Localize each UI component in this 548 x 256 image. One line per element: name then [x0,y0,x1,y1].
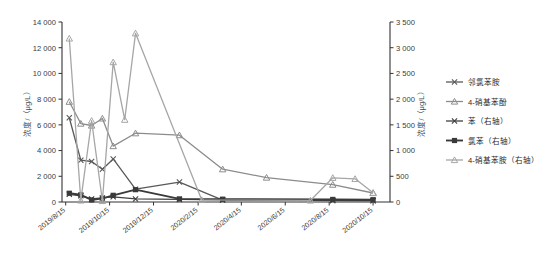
point-marker [89,197,94,202]
legend-label: 邻氯苯胺 [468,77,500,87]
y-tick-label-left: 12 000 [33,44,56,53]
series-4-硝基苯胺（右轴） [66,30,376,203]
y-tick-label-right: 0 [396,198,400,207]
line-chart: 02 0004 0006 0008 00010 00012 00014 0000… [0,0,548,256]
legend-label: 4-硝基苯胺（右轴） [468,155,539,165]
x-tick-label: 2019/12/15 [121,205,155,234]
y-tick-label-left: 10 000 [33,69,56,78]
y-tick-label-right: 3 500 [396,18,415,27]
y-tick-label-left: 14 000 [33,18,56,27]
legend-label: 氯苯（右轴） [468,136,516,146]
series-line [69,33,373,201]
y-tick-label-left: 6 000 [37,121,56,130]
point-marker [177,196,182,201]
y-tick-label-right: 2 500 [396,69,415,78]
point-marker [220,197,225,202]
x-tick-label: 2019/10/15 [77,205,111,234]
y-tick-label-right: 2 000 [396,95,415,104]
x-tick-label: 2019/8/15 [36,205,67,232]
x-tick-label: 2020/8/15 [300,205,331,232]
x-tick-label: 2020/4/15 [212,205,243,232]
x-tick-label: 2020/2/15 [169,205,200,232]
right-axis-title: 浓度/（μg/L） [416,87,426,136]
point-marker [111,193,116,198]
y-tick-label-left: 0 [52,198,56,207]
y-tick-label-right: 500 [396,172,409,181]
y-tick-label-left: 4 000 [37,146,56,155]
point-marker [66,99,72,105]
point-marker [452,138,457,143]
chart-canvas: 02 0004 0006 0008 00010 00012 00014 0000… [0,0,548,256]
y-tick-label-left: 8 000 [37,95,56,104]
legend-item-3[interactable]: 氯苯（右轴） [446,136,516,146]
x-tick-label: 2020/6/15 [256,205,287,232]
x-tick-label: 2020/10/15 [340,205,374,234]
legend-item-2[interactable]: 苯（右轴） [446,116,508,126]
y-tick-label-left: 2 000 [37,172,56,181]
point-marker [133,187,138,192]
y-tick-label-right: 3 000 [396,44,415,53]
point-marker [111,156,116,161]
point-marker [330,197,335,202]
legend-item-0[interactable]: 邻氯苯胺 [446,77,500,87]
series-line [69,118,373,201]
left-axis-title: 浓度/（μg/L） [22,87,32,136]
y-tick-label-right: 1 000 [396,146,415,155]
series-邻氯苯胺 [67,115,376,203]
point-marker [67,191,72,196]
legend-item-4[interactable]: 4-硝基苯胺（右轴） [446,155,539,165]
point-marker [370,197,375,202]
legend-label: 4-硝基苯酚 [468,97,507,107]
series-line [69,102,373,193]
legend-label: 苯（右轴） [468,116,508,126]
y-tick-label-right: 1 500 [396,121,415,130]
legend-item-1[interactable]: 4-硝基苯酚 [446,97,507,107]
